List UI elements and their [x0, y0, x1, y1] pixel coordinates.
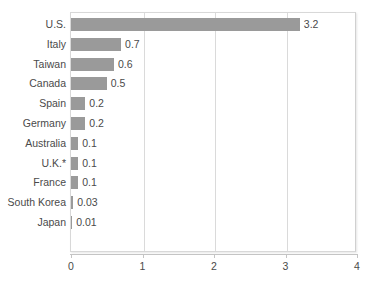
- x-tick: [71, 254, 72, 258]
- category-label: Japan: [0, 212, 66, 232]
- gridline: [144, 13, 145, 251]
- category-label: Italy: [0, 34, 66, 54]
- plot-area: [70, 12, 356, 252]
- bar-chart: U.S.3.2Italy0.7Taiwan0.6Canada0.5Spain0.…: [0, 0, 366, 281]
- category-label: Germany: [0, 113, 66, 133]
- category-label: Spain: [0, 93, 66, 113]
- category-label: U.S.: [0, 14, 66, 34]
- category-label: France: [0, 172, 66, 192]
- gridline: [215, 13, 216, 251]
- x-tick: [214, 254, 215, 258]
- category-label: Australia: [0, 133, 66, 153]
- category-label: South Korea: [0, 192, 66, 212]
- category-label: U.K.*: [0, 153, 66, 173]
- category-label: Canada: [0, 73, 66, 93]
- category-label: Taiwan: [0, 54, 66, 74]
- x-tick-label: 3: [271, 260, 301, 272]
- x-tick: [286, 254, 287, 258]
- x-tick: [143, 254, 144, 258]
- x-tick-label: 0: [56, 260, 86, 272]
- x-tick-label: 4: [342, 260, 366, 272]
- gridline: [287, 13, 288, 251]
- x-tick-label: 1: [128, 260, 158, 272]
- x-tick-label: 2: [199, 260, 229, 272]
- x-tick: [357, 254, 358, 258]
- gridlines: [71, 13, 355, 251]
